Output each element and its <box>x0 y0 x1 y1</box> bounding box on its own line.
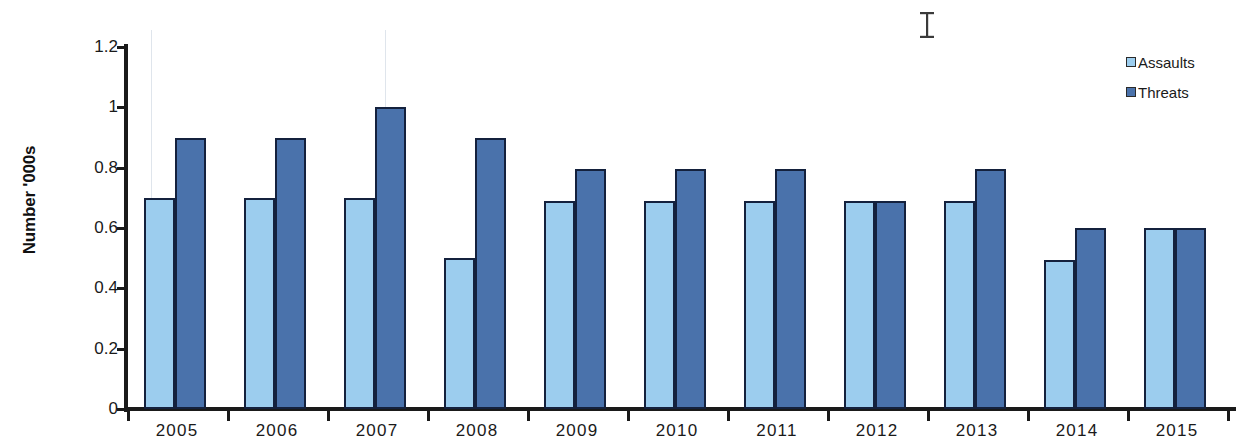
bar-threats-2011 <box>775 169 806 409</box>
legend-swatch-icon <box>1126 87 1136 97</box>
legend-item-assaults: Assaults <box>1126 47 1195 77</box>
bar-assaults-2007 <box>344 198 375 409</box>
x-axis-tick <box>827 410 830 421</box>
text-cursor-icon <box>918 10 936 40</box>
y-axis-tick-label: 0.2 <box>58 340 118 357</box>
legend: AssaultsThreats <box>1126 47 1195 107</box>
y-axis-tick <box>117 348 125 351</box>
bar-assaults-2005 <box>144 198 175 409</box>
legend-label: Threats <box>1138 85 1189 100</box>
x-axis-tick <box>627 410 630 421</box>
plot-area <box>127 47 1227 409</box>
bar-threats-2006 <box>275 138 306 410</box>
bar-assaults-2015 <box>1144 228 1175 409</box>
legend-item-threats: Threats <box>1126 77 1195 107</box>
x-axis-tick <box>927 410 930 421</box>
y-axis-tick <box>117 46 125 49</box>
y-axis-tick <box>117 287 125 290</box>
x-axis-tick <box>1227 410 1230 421</box>
bar-assaults-2009 <box>544 201 575 409</box>
y-axis-tick-label: 0.8 <box>58 159 118 176</box>
y-axis-tick-label: 1.2 <box>58 38 118 55</box>
bar-threats-2007 <box>375 107 406 409</box>
legend-label: Assaults <box>1138 55 1195 70</box>
bar-assaults-2014 <box>1044 260 1075 409</box>
bar-chart: Number '000s 00.20.40.60.811.2 200520062… <box>0 0 1249 446</box>
bar-assaults-2012 <box>844 201 875 409</box>
y-axis-tick <box>117 227 125 230</box>
x-axis-tick <box>127 410 130 421</box>
bar-threats-2013 <box>975 169 1006 409</box>
bar-assaults-2006 <box>244 198 275 409</box>
bar-threats-2015 <box>1175 228 1206 409</box>
bar-threats-2009 <box>575 169 606 409</box>
x-axis-tick <box>1027 410 1030 421</box>
bar-threats-2010 <box>675 169 706 409</box>
x-axis-tick <box>427 410 430 421</box>
y-axis-tick-label: 0 <box>58 400 118 417</box>
x-axis-tick <box>1127 410 1130 421</box>
x-axis-tick <box>327 410 330 421</box>
y-axis-tick-label: 1 <box>58 98 118 115</box>
x-axis-tick-label: 2015 <box>1117 421 1237 441</box>
y-axis-tick <box>117 408 125 411</box>
y-axis-tick-label: 0.4 <box>58 279 118 296</box>
x-axis-tick <box>727 410 730 421</box>
bar-threats-2012 <box>875 201 906 409</box>
bar-assaults-2011 <box>744 201 775 409</box>
x-axis-tick <box>527 410 530 421</box>
bar-threats-2008 <box>475 138 506 410</box>
bar-threats-2014 <box>1075 228 1106 409</box>
y-axis-title: Number '000s <box>20 120 40 280</box>
x-axis-tick <box>227 410 230 421</box>
bar-threats-2005 <box>175 138 206 410</box>
bar-assaults-2013 <box>944 201 975 409</box>
legend-swatch-icon <box>1126 57 1136 67</box>
bar-assaults-2008 <box>444 258 475 409</box>
bar-assaults-2010 <box>644 201 675 409</box>
y-axis-tick <box>117 167 125 170</box>
y-axis-tick-label: 0.6 <box>58 219 118 236</box>
y-axis-tick <box>117 106 125 109</box>
